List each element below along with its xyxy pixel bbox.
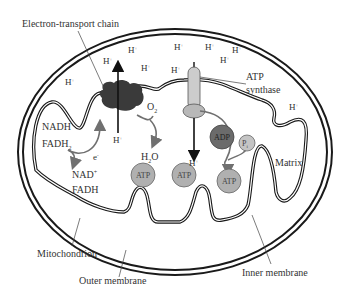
label-fadh: FADH (72, 184, 98, 195)
svg-text:H+: H+ (189, 158, 199, 168)
svg-text:H+: H+ (205, 42, 215, 52)
inner-membrane (34, 80, 307, 222)
label-mitochondrion: Mitochondrion (37, 248, 97, 259)
svg-text:H+: H+ (289, 102, 299, 112)
svg-text:H+: H+ (232, 45, 242, 55)
label-nad-plus: NAD+ (72, 169, 98, 180)
atp-molecule: ATP (131, 163, 155, 187)
svg-text:H+: H+ (171, 65, 181, 75)
svg-text:H+: H+ (141, 63, 151, 73)
svg-text:H+: H+ (174, 42, 184, 52)
pi-molecule: Pi (239, 135, 255, 151)
label-o2: O2 (147, 101, 157, 114)
inner-membrane-leader-line (252, 215, 271, 264)
electron-transport-chain-complex (100, 80, 144, 111)
label-outer-membrane: Outer membrane (79, 275, 147, 286)
label-atp-synthase-line1: ATP (246, 71, 264, 82)
adp-molecule: ADP (210, 125, 234, 149)
svg-text:H+: H+ (65, 77, 75, 87)
label-matrix: Matrix (275, 157, 302, 168)
svg-text:H+: H+ (113, 135, 123, 145)
svg-text:ATP: ATP (177, 171, 192, 180)
svg-text:H+: H+ (103, 56, 113, 66)
svg-text:ATP: ATP (222, 177, 237, 186)
svg-text:ADP: ADP (214, 133, 231, 142)
oxygen-reduction-arrow (137, 115, 156, 143)
label-h2o: H2O (141, 151, 158, 164)
label-nadh: NADH (42, 121, 71, 132)
label-fadh2: FADH2 (42, 138, 71, 151)
svg-text:H+: H+ (128, 45, 138, 55)
atp-synthase (183, 62, 205, 118)
label-electron-transport-chain: Electron-transport chain (22, 18, 119, 29)
label-inner-membrane: Inner membrane (242, 267, 308, 278)
label-electron: e- (93, 152, 99, 162)
svg-text:H+: H+ (220, 55, 230, 65)
svg-text:ATP: ATP (136, 171, 151, 180)
label-atp-synthase-line2: synthase (246, 84, 281, 95)
electron-flow-arrow (68, 125, 100, 153)
atp-molecule: ATP (217, 169, 241, 193)
mitochondrion-diagram: Electron-transport chain ATP synthase AD… (0, 0, 351, 304)
